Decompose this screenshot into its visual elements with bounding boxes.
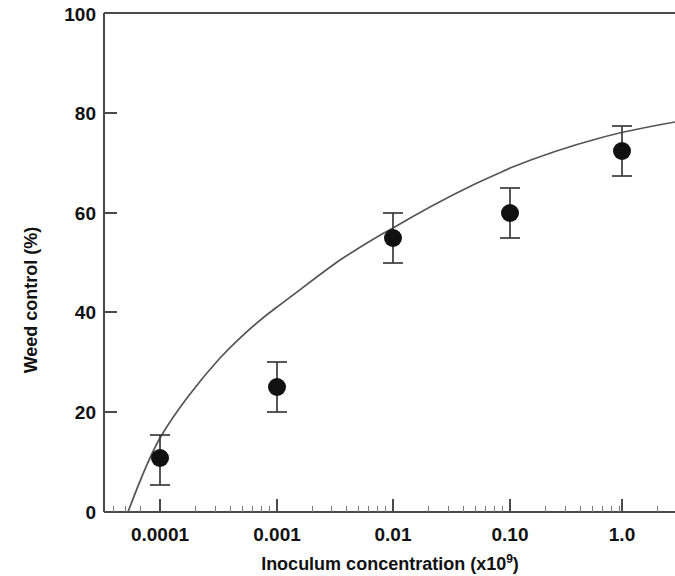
marker-point-5 bbox=[613, 142, 631, 160]
x-axis-title-base: Inoculum concentration (x10 bbox=[261, 554, 506, 574]
y-axis-ticks bbox=[104, 13, 117, 512]
data-point-1[interactable] bbox=[150, 435, 170, 485]
marker-point-4 bbox=[501, 204, 519, 222]
x-tick-labels: 0.0001 0.001 0.01 0.10 1.0 bbox=[131, 524, 635, 545]
data-point-3[interactable] bbox=[383, 213, 403, 263]
y-tick-label-80: 80 bbox=[75, 103, 96, 124]
y-tick-label-60: 60 bbox=[75, 203, 96, 224]
x-axis-title: Inoculum concentration (x109) bbox=[261, 552, 519, 574]
x-axis-ticks bbox=[160, 499, 622, 512]
y-tick-label-40: 40 bbox=[75, 302, 96, 323]
marker-point-2 bbox=[268, 378, 286, 396]
marker-point-1 bbox=[151, 449, 169, 467]
data-point-4[interactable] bbox=[500, 188, 520, 238]
x-tick-label-5: 1.0 bbox=[609, 524, 635, 545]
data-points-group bbox=[150, 126, 632, 485]
x-tick-label-4: 0.10 bbox=[492, 524, 529, 545]
y-tick-label-100: 100 bbox=[64, 4, 96, 25]
y-tick-label-20: 20 bbox=[75, 402, 96, 423]
y-tick-labels: 0 20 40 60 80 100 bbox=[64, 4, 96, 523]
fitted-curve-group bbox=[128, 122, 675, 512]
x-tick-label-1: 0.0001 bbox=[131, 524, 190, 545]
y-tick-label-0: 0 bbox=[85, 502, 96, 523]
marker-point-3 bbox=[384, 229, 402, 247]
x-axis-title-tail: ) bbox=[513, 554, 519, 574]
x-axis-minor-ticks bbox=[113, 506, 657, 512]
fitted-curve bbox=[128, 122, 675, 512]
y-axis-title: Weed control (%) bbox=[21, 227, 41, 374]
x-tick-label-2: 0.001 bbox=[253, 524, 301, 545]
dose-response-chart: 0 20 40 60 80 100 bbox=[0, 0, 675, 576]
data-point-2[interactable] bbox=[267, 362, 287, 412]
figure-container: 0 20 40 60 80 100 bbox=[0, 0, 675, 576]
x-tick-label-3: 0.01 bbox=[375, 524, 412, 545]
